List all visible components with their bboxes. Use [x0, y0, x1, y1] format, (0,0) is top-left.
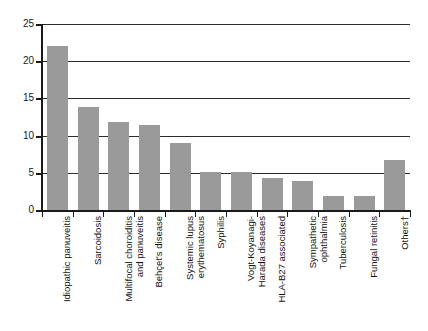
y-axis-tick-label: 15 — [14, 93, 34, 103]
x-axis-category-label: Vogt-Koyanagi- Harada diseases — [246, 216, 267, 331]
bars-layer — [42, 25, 410, 211]
bar — [139, 125, 160, 211]
x-axis-category-label: Idiopathic panuveitis — [62, 216, 73, 331]
x-axis-category-label: Syphilis — [216, 216, 227, 331]
bar — [108, 122, 129, 211]
x-axis-category-labels: Idiopathic panuveitisSarcoidosisMultifoc… — [42, 216, 410, 331]
y-axis-tick-mark — [36, 98, 41, 100]
x-axis-category-label: Tuberculosis — [338, 216, 349, 331]
x-axis-category-label: HLA-B27 associated — [277, 216, 288, 331]
bar — [323, 196, 344, 211]
bar — [231, 172, 252, 211]
y-axis-tick-label: 25 — [14, 19, 34, 29]
y-axis-tick-mark — [36, 210, 41, 212]
x-axis-category-label: Systemic lupus erythematosus — [185, 216, 206, 331]
y-axis-tick-mark — [36, 24, 41, 26]
y-axis-tick-mark — [36, 173, 41, 175]
y-axis-tick-label: 20 — [14, 56, 34, 66]
x-axis-category-label: Others† — [400, 216, 411, 331]
bar — [262, 178, 283, 211]
bar-chart: 0510152025 Idiopathic panuveitisSarcoido… — [0, 0, 428, 331]
bar — [47, 46, 68, 211]
y-axis-tick-label: 10 — [14, 131, 34, 141]
x-axis-category-label: Multifocal choroiditis and panuveitis — [124, 216, 145, 331]
bar — [354, 196, 375, 211]
bar — [78, 107, 99, 211]
x-axis-category-label: Sarcoidosis — [93, 216, 104, 331]
y-axis-tick-label: 0 — [14, 205, 34, 215]
y-axis-tick-label: 5 — [14, 168, 34, 178]
bar — [292, 181, 313, 212]
x-axis-category-label: Sympathetic ophthalmia — [308, 216, 329, 331]
bar — [170, 143, 191, 211]
x-axis-category-label: Fungal retinitis — [369, 216, 380, 331]
y-axis-tick-mark — [36, 136, 41, 138]
bar — [200, 172, 221, 211]
x-axis-category-label: Behçet's disease — [154, 216, 165, 331]
y-axis-tick-mark — [36, 61, 41, 63]
y-axis-line — [41, 24, 43, 212]
bar — [384, 160, 405, 211]
